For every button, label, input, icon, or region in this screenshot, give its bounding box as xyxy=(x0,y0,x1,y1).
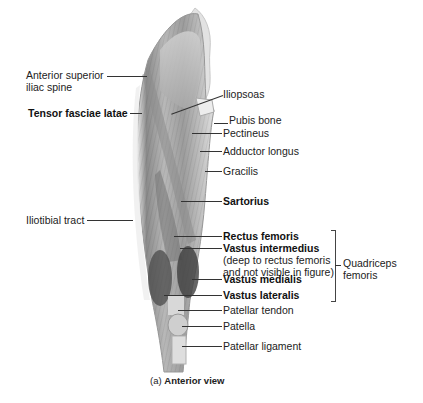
leader-line xyxy=(130,113,142,114)
leader-line xyxy=(164,295,222,296)
label-vastus-medialis: Vastus medialis xyxy=(223,273,302,285)
caption-title: Anterior view xyxy=(164,375,224,386)
leader-line xyxy=(205,171,222,172)
label-gracilis: Gracilis xyxy=(223,165,258,177)
leader-line xyxy=(182,346,222,347)
leader-line xyxy=(335,265,341,266)
leader-line xyxy=(87,220,133,221)
label-vastus-intermedius: Vastus intermedius xyxy=(223,242,319,254)
label-adductor-longus: Adductor longus xyxy=(223,145,299,157)
label-tensor-fasciae-latae: Tensor fasciae latae xyxy=(28,107,128,119)
leader-line xyxy=(192,279,222,280)
label-line-1: Anterior superior xyxy=(26,69,104,81)
label-patellar-ligament: Patellar ligament xyxy=(223,340,301,352)
label-sartorius: Sartorius xyxy=(223,195,269,207)
label-line-1: Quadriceps xyxy=(343,257,397,269)
label-line-2: femoris xyxy=(343,269,397,281)
label-pubis-bone: Pubis bone xyxy=(229,114,282,126)
caption-prefix: (a) xyxy=(150,375,162,386)
label-iliopsoas: Iliopsoas xyxy=(223,88,264,100)
leader-line xyxy=(192,133,222,134)
label-pectineus: Pectineus xyxy=(223,127,269,139)
figure-caption: (a) Anterior view xyxy=(150,375,224,386)
label-patellar-tendon: Patellar tendon xyxy=(223,304,294,316)
thigh-muscle-figure: Anterior superior iliac spine Tensor fas… xyxy=(0,0,423,403)
leader-line xyxy=(182,326,222,327)
leader-line xyxy=(214,123,228,124)
label-vastus-intermedius-note-1: (deep to rectus femoris xyxy=(223,254,330,266)
leader-line xyxy=(200,151,222,152)
label-quadriceps-femoris: Quadriceps femoris xyxy=(343,257,397,281)
leader-line xyxy=(178,310,222,311)
label-line-2: iliac spine xyxy=(26,81,104,93)
label-vastus-lateralis: Vastus lateralis xyxy=(223,289,299,301)
leader-line xyxy=(181,201,222,202)
label-iliotibial-tract: Iliotibial tract xyxy=(26,214,84,226)
leader-line xyxy=(174,236,222,237)
quadriceps-bracket xyxy=(331,230,336,302)
leader-line xyxy=(107,76,147,77)
leader-line xyxy=(180,248,222,249)
label-anterior-superior-iliac-spine: Anterior superior iliac spine xyxy=(26,69,104,93)
label-patella: Patella xyxy=(223,320,255,332)
label-rectus-femoris: Rectus femoris xyxy=(223,230,299,242)
